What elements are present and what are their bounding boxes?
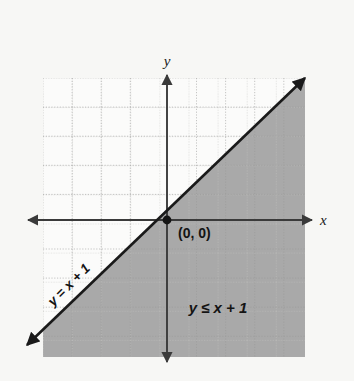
inequality-graph-figure: y x (0, 0) y ≤ x + 1 y = x + 1 (0, 0, 354, 381)
x-axis-label: x (319, 212, 327, 228)
origin-point (163, 216, 172, 225)
graph-canvas: y x (0, 0) y ≤ x + 1 y = x + 1 (0, 0, 354, 381)
inequality-label: y ≤ x + 1 (188, 299, 248, 316)
grid-lines (43, 78, 305, 357)
origin-point-label: (0, 0) (178, 225, 211, 241)
y-axis-label: y (162, 53, 171, 69)
